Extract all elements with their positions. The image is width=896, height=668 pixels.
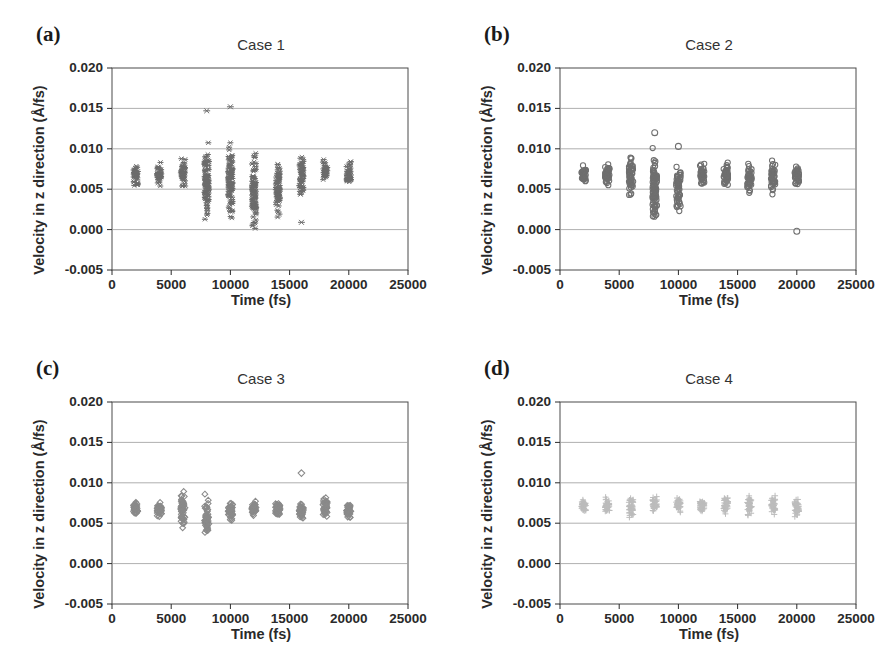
y-tick-label: 0.015 xyxy=(69,100,103,115)
x-tick-label: 5000 xyxy=(156,277,186,292)
x-tick-label: 15000 xyxy=(271,611,309,626)
y-tick-label: -0.005 xyxy=(513,596,552,611)
x-tick-label: 10000 xyxy=(212,611,250,626)
x-tick-label: 0 xyxy=(108,277,116,292)
y-tick-label: -0.005 xyxy=(513,262,552,277)
y-tick-label: 0.010 xyxy=(69,475,103,490)
x-tick-label: 20000 xyxy=(330,277,368,292)
y-tick-label: 0.005 xyxy=(69,181,103,196)
y-tick-label: 0.000 xyxy=(517,556,551,571)
x-tick-label: 15000 xyxy=(719,277,757,292)
y-tick-label: -0.005 xyxy=(65,262,104,277)
plot-area-d: -0.0050.0000.0050.0100.0150.020050001000… xyxy=(448,334,896,668)
x-tick-label: 0 xyxy=(556,277,564,292)
panel-b: (b) Case 2 Velocity in z direction (Å/fs… xyxy=(448,0,896,334)
y-tick-label: 0.010 xyxy=(69,141,103,156)
x-tick-label: 10000 xyxy=(660,277,698,292)
x-tick-label: 20000 xyxy=(330,611,368,626)
y-tick-label: 0.020 xyxy=(517,60,551,75)
y-tick-label: 0.020 xyxy=(69,394,103,409)
panel-d: (d) Case 4 Velocity in z direction (Å/fs… xyxy=(448,334,896,668)
y-tick-label: 0.020 xyxy=(517,394,551,409)
x-tick-label: 5000 xyxy=(156,611,186,626)
y-tick-label: 0.000 xyxy=(69,222,103,237)
y-tick-label: 0.015 xyxy=(517,100,551,115)
y-tick-label: 0.005 xyxy=(517,181,551,196)
y-tick-label: 0.015 xyxy=(517,434,551,449)
y-tick-label: 0.010 xyxy=(517,475,551,490)
figure-grid: (a) Case 1 Velocity in z direction (Å/fs… xyxy=(0,0,896,668)
x-tick-label: 0 xyxy=(108,611,116,626)
x-tick-label: 20000 xyxy=(778,277,816,292)
y-tick-label: -0.005 xyxy=(65,596,104,611)
x-tick-label: 25000 xyxy=(389,611,427,626)
x-tick-label: 10000 xyxy=(212,277,250,292)
panel-a: (a) Case 1 Velocity in z direction (Å/fs… xyxy=(0,0,448,334)
x-tick-label: 25000 xyxy=(837,277,875,292)
x-tick-label: 5000 xyxy=(604,277,634,292)
plot-area-a: -0.0050.0000.0050.0100.0150.020050001000… xyxy=(0,0,448,334)
x-tick-label: 25000 xyxy=(389,277,427,292)
y-tick-label: 0.020 xyxy=(69,60,103,75)
x-tick-label: 25000 xyxy=(837,611,875,626)
y-tick-label: 0.015 xyxy=(69,434,103,449)
plot-area-c: -0.0050.0000.0050.0100.0150.020050001000… xyxy=(0,334,448,668)
x-tick-label: 5000 xyxy=(604,611,634,626)
panel-c: (c) Case 3 Velocity in z direction (Å/fs… xyxy=(0,334,448,668)
y-tick-label: 0.000 xyxy=(517,222,551,237)
x-tick-label: 15000 xyxy=(271,277,309,292)
y-tick-label: 0.005 xyxy=(69,515,103,530)
x-tick-label: 10000 xyxy=(660,611,698,626)
x-tick-label: 20000 xyxy=(778,611,816,626)
x-tick-label: 0 xyxy=(556,611,564,626)
y-tick-label: 0.010 xyxy=(517,141,551,156)
x-tick-label: 15000 xyxy=(719,611,757,626)
y-tick-label: 0.005 xyxy=(517,515,551,530)
plot-area-b: -0.0050.0000.0050.0100.0150.020050001000… xyxy=(448,0,896,334)
y-tick-label: 0.000 xyxy=(69,556,103,571)
